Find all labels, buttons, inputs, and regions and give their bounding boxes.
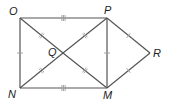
label-M: M (103, 89, 113, 101)
segment-NQ (20, 53, 63, 88)
geometry-diagram: O P N M Q R (0, 0, 171, 105)
label-N: N (8, 88, 16, 100)
label-P: P (104, 4, 112, 16)
label-R: R (153, 47, 161, 59)
tick-marks (17, 15, 130, 91)
segment-QP (63, 18, 107, 53)
label-Q: Q (48, 46, 57, 58)
segments (20, 18, 150, 88)
segment-QM (63, 53, 107, 88)
label-O: O (9, 5, 18, 17)
